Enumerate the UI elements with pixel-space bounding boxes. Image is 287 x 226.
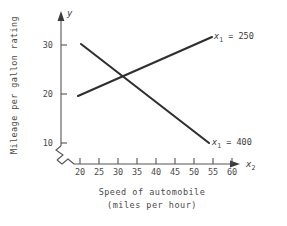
series-line-x1-250 xyxy=(78,37,212,96)
series-label-x1-250: x1 = 250 xyxy=(214,31,254,44)
series-label-eq-250: = 250 xyxy=(228,31,254,41)
y-axis-variable-label: y xyxy=(67,8,72,18)
y-axis-variable-text: y xyxy=(67,8,72,18)
series-label-sub-250: 1 xyxy=(219,36,223,44)
x-tick-label-30: 30 xyxy=(110,167,126,177)
x-tick-label-55: 55 xyxy=(205,167,221,177)
x-tick-label-20: 20 xyxy=(72,167,88,177)
x-axis-break-icon xyxy=(57,159,74,164)
series-label-x1-400: x1 = 400 xyxy=(212,137,252,150)
x-tick-label-60: 60 xyxy=(224,167,240,177)
y-tick-label-30: 30 xyxy=(37,40,53,50)
x-tick-label-45: 45 xyxy=(167,167,183,177)
x-tick-label-25: 25 xyxy=(91,167,107,177)
x-axis-title: Speed of automobile (miles per hour) xyxy=(62,186,242,212)
x-tick-label-40: 40 xyxy=(148,167,164,177)
series-line-x1-400 xyxy=(81,44,209,143)
y-axis-title: Mileage per gallon rating xyxy=(9,5,19,165)
y-tick-label-20: 20 xyxy=(37,89,53,99)
y-tick-label-10: 10 xyxy=(37,138,53,148)
x-tick-label-35: 35 xyxy=(129,167,145,177)
y-axis-break-icon xyxy=(56,146,63,160)
x-axis-title-line2: (miles per hour) xyxy=(62,199,242,212)
x-axis-title-line1: Speed of automobile xyxy=(62,186,242,199)
series-label-eq-400: = 400 xyxy=(226,137,252,147)
x-tick-label-50: 50 xyxy=(186,167,202,177)
x-axis-variable-subscript: 2 xyxy=(251,164,255,172)
y-axis-arrowhead xyxy=(58,11,65,21)
series-label-sub-400: 1 xyxy=(217,142,221,150)
x-axis-variable-label: x2 xyxy=(246,159,255,172)
